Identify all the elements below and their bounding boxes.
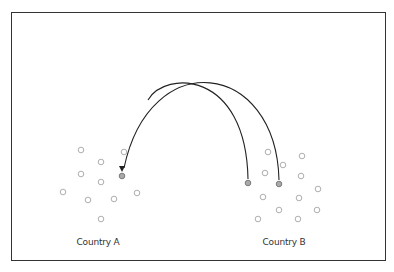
person-icon <box>296 195 302 201</box>
person-icon <box>98 159 104 165</box>
person-icon <box>78 171 84 177</box>
person-icon <box>260 194 266 200</box>
person-icon <box>298 173 304 179</box>
country-b-label: Country B <box>263 237 306 247</box>
country-b-people <box>245 149 321 222</box>
person-icon <box>60 189 66 195</box>
person-icon <box>98 216 104 222</box>
person-icon <box>98 179 104 185</box>
person-icon <box>134 190 140 196</box>
person-icon <box>78 147 84 153</box>
outer-arc <box>124 83 279 180</box>
person-icon <box>262 170 268 176</box>
person-icon <box>280 162 286 168</box>
person-icon <box>255 216 261 222</box>
migration-diagram <box>0 0 394 272</box>
person-icon <box>265 149 271 155</box>
person-icon <box>295 216 301 222</box>
migrant-person-icon <box>276 181 282 187</box>
person-icon <box>314 207 320 213</box>
country-a-label: Country A <box>77 237 120 247</box>
migrant-person-icon <box>245 180 251 186</box>
person-icon <box>276 207 282 213</box>
person-icon <box>121 149 127 155</box>
person-icon <box>111 196 117 202</box>
person-icon <box>85 197 91 203</box>
person-icon <box>315 186 321 192</box>
arrowhead-icon <box>119 166 125 172</box>
migrant-person-icon <box>119 173 125 179</box>
country-a-people <box>60 147 140 222</box>
person-icon <box>299 153 305 159</box>
